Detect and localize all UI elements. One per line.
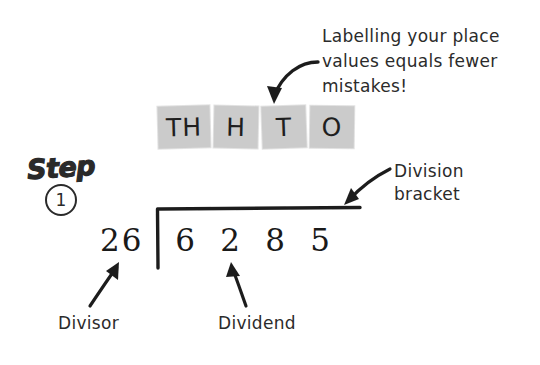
place-value-hundreds: H	[214, 106, 259, 149]
arrow-note-to-place-values	[267, 62, 318, 104]
divisor-value: 26	[100, 222, 143, 258]
place-value-tip-note: Labelling your place values equals fewer…	[322, 24, 532, 99]
arrow-to-division-bracket	[344, 169, 390, 205]
place-value-thousands: TH	[157, 105, 210, 148]
dividend-digit-tens: 8	[262, 222, 288, 258]
place-value-tens: T	[261, 105, 306, 149]
step-badge: Step 1	[24, 152, 98, 214]
label-division-bracket: Division bracket	[394, 160, 464, 206]
arrow-to-divisor	[90, 262, 119, 306]
step-badge-word: Step	[23, 149, 99, 185]
dividend-digit-thousands: 6	[172, 222, 198, 258]
label-divisor: Divisor	[58, 312, 119, 335]
place-value-ones: O	[310, 106, 355, 149]
worksheet-canvas: Labelling your place values equals fewer…	[0, 0, 540, 365]
dividend-digit-hundreds: 2	[217, 222, 243, 258]
arrow-to-dividend	[226, 262, 246, 306]
dividend-digit-ones: 5	[307, 222, 333, 258]
label-dividend: Dividend	[218, 312, 296, 335]
step-badge-number: 1	[45, 184, 77, 216]
